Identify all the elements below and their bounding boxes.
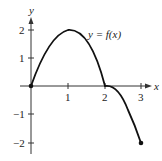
y-tick-label-1: 1 xyxy=(19,52,25,64)
x-tick-label-2: 2 xyxy=(102,91,108,103)
y-tick-label-neg2: −2 xyxy=(13,137,25,149)
y-tick-label-2: 2 xyxy=(19,24,25,36)
x-axis-arrow-icon xyxy=(145,84,152,89)
y-axis-arrow-icon xyxy=(29,17,34,24)
curve-label-text: y = f(x) xyxy=(87,28,121,41)
function-graph: y x 1 2 3 2 1 −1 −2 y = f(x) xyxy=(0,0,162,161)
x-tick-label-1: 1 xyxy=(65,91,71,103)
x-axis-label: x xyxy=(153,80,159,92)
end-point xyxy=(139,141,144,146)
x-tick-label-3: 3 xyxy=(138,91,144,103)
curve-label: y = f(x) xyxy=(87,28,121,41)
y-tick-label-neg1: −1 xyxy=(13,108,25,120)
start-point xyxy=(29,84,34,89)
y-axis-label: y xyxy=(28,4,34,16)
